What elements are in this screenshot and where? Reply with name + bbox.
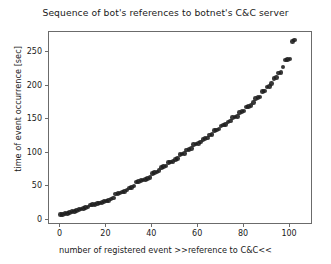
data-point (235, 114, 240, 119)
x-tick-label: 40 (146, 229, 156, 238)
data-point (279, 70, 284, 75)
data-point (262, 89, 267, 94)
data-point (251, 100, 256, 105)
y-tick-mark (45, 185, 48, 186)
y-tick-label: 150 (18, 114, 42, 123)
y-tick-mark (45, 85, 48, 86)
data-point (111, 196, 116, 201)
data-point (132, 184, 137, 189)
page-title: Sequence of bot's references to botnet's… (0, 7, 331, 18)
x-tick-mark (289, 224, 290, 227)
data-point (292, 38, 297, 43)
x-tick-label: 0 (57, 229, 62, 238)
plot-area (48, 31, 312, 224)
x-tick-label: 60 (192, 229, 202, 238)
data-point (210, 132, 215, 137)
chart-screenshot: Sequence of bot's references to botnet's… (0, 0, 331, 264)
x-axis-label: number of registered event >>reference t… (0, 245, 331, 255)
data-point (175, 156, 180, 161)
x-tick-mark (243, 224, 244, 227)
data-point (148, 175, 153, 180)
data-point (242, 109, 247, 114)
scatter-points-layer (49, 32, 311, 223)
x-tick-label: 80 (238, 229, 248, 238)
y-tick-label: 0 (18, 214, 42, 223)
data-point (281, 65, 286, 70)
data-point (258, 95, 263, 100)
x-tick-mark (59, 224, 60, 227)
x-tick-label: 100 (281, 229, 296, 238)
y-tick-label: 200 (18, 80, 42, 89)
y-tick-label: 100 (18, 147, 42, 156)
data-point (274, 75, 279, 80)
y-tick-mark (45, 118, 48, 119)
y-tick-label: 50 (18, 181, 42, 190)
data-point (189, 146, 194, 151)
y-tick-label: 250 (18, 47, 42, 56)
x-tick-label: 20 (100, 229, 110, 238)
data-point (288, 57, 293, 62)
y-tick-mark (45, 219, 48, 220)
x-tick-mark (197, 224, 198, 227)
y-tick-mark (45, 51, 48, 52)
data-point (269, 81, 274, 86)
x-tick-mark (151, 224, 152, 227)
y-tick-mark (45, 152, 48, 153)
x-tick-mark (105, 224, 106, 227)
